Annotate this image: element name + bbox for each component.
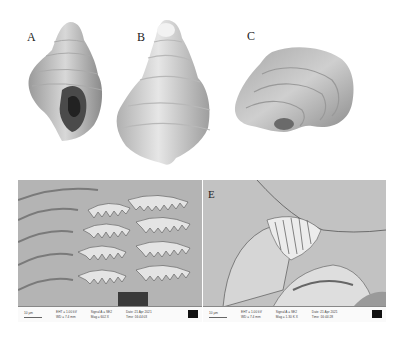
panel-label-c: C <box>247 29 255 44</box>
wd-value: WD = 7.4 mm <box>241 315 262 320</box>
shell-image-a <box>24 20 109 145</box>
time-value: Time :16:44:28 <box>312 315 338 320</box>
sem-databar-d: 10 µm EHT = 1.00 kVWD = 7.4 mm Signal A … <box>18 306 202 322</box>
shell-image-c <box>232 44 357 137</box>
time-value: Time :16:44:03 <box>126 315 152 320</box>
sem-panel-e: E 10 µm EHT = 1.00 kVWD = 7.4 mm Signal … <box>203 180 386 322</box>
shell-image-b <box>112 18 220 168</box>
scale-bar <box>24 317 42 318</box>
sem-databar-e: 10 µm EHT = 1.00 kVWD = 7.4 mm Signal A … <box>203 306 386 322</box>
sem-image-e <box>203 180 386 307</box>
scale-label: 10 µm <box>209 311 227 316</box>
zeiss-logo-icon <box>188 310 198 318</box>
scale-bar <box>209 317 227 318</box>
mag-value: Mag = 1.30 K X <box>276 315 298 320</box>
sem-panel-d: 10 µm EHT = 1.00 kVWD = 7.4 mm Signal A … <box>18 180 202 322</box>
sem-image-d <box>18 180 202 307</box>
scale-label: 10 µm <box>24 311 42 316</box>
wd-value: WD = 7.4 mm <box>56 315 77 320</box>
mag-value: Mag = 602 X <box>91 315 112 320</box>
panel-label-e: E <box>208 188 215 200</box>
zeiss-logo-icon <box>372 310 382 318</box>
